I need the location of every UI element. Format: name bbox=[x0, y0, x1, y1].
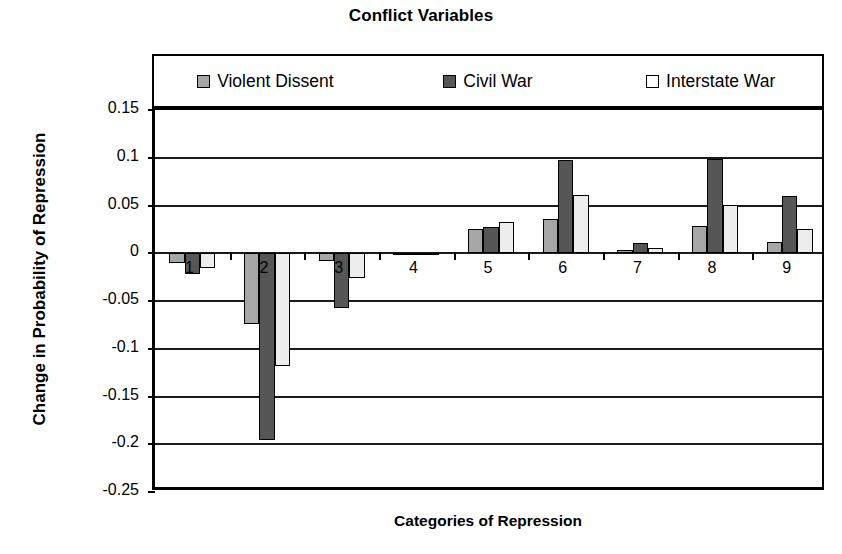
x-tick-mark bbox=[603, 252, 605, 260]
x-category-label: 9 bbox=[749, 260, 824, 276]
y-tick-label: 0 bbox=[17, 243, 139, 259]
y-tick-mark bbox=[148, 109, 155, 111]
y-tick-mark bbox=[148, 396, 155, 398]
bar bbox=[409, 253, 424, 255]
bar bbox=[707, 159, 722, 254]
bar bbox=[648, 248, 663, 253]
legend-label: Civil War bbox=[463, 71, 532, 92]
y-axis-label-container: Change in Probability of Repression bbox=[30, 69, 58, 489]
y-tick-mark bbox=[148, 443, 155, 445]
bar bbox=[259, 253, 274, 440]
chart-figure: Conflict Variables Change in Probability… bbox=[0, 0, 842, 554]
gridline bbox=[155, 443, 822, 445]
x-category-label: 8 bbox=[675, 260, 750, 276]
legend-item-violent-dissent[interactable]: Violent Dissent bbox=[154, 71, 377, 92]
y-tick-mark bbox=[148, 252, 155, 254]
bar bbox=[558, 160, 573, 254]
bar bbox=[468, 229, 483, 253]
plot-area bbox=[152, 108, 824, 490]
y-tick-label: 0.05 bbox=[17, 196, 139, 212]
x-axis-label: Categories of Repression bbox=[152, 512, 824, 530]
bar bbox=[424, 253, 439, 255]
bar bbox=[393, 253, 408, 255]
y-axis-label: Change in Probability of Repression bbox=[30, 69, 50, 489]
y-tick-label: -0.25 bbox=[17, 482, 139, 498]
x-category-label: 2 bbox=[227, 260, 302, 276]
legend-swatch-icon bbox=[646, 75, 659, 88]
x-category-label: 3 bbox=[301, 260, 376, 276]
gridline bbox=[155, 348, 822, 350]
x-tick-mark bbox=[304, 252, 306, 260]
bar bbox=[617, 250, 632, 253]
bar bbox=[692, 226, 707, 254]
x-category-label: 7 bbox=[600, 260, 675, 276]
bar bbox=[573, 195, 588, 253]
y-tick-label: 0.1 bbox=[17, 148, 139, 164]
x-category-label: 4 bbox=[376, 260, 451, 276]
x-tick-mark bbox=[752, 252, 754, 260]
y-tick-label: -0.15 bbox=[17, 387, 139, 403]
x-category-label: 1 bbox=[152, 260, 227, 276]
y-tick-mark bbox=[148, 300, 155, 302]
y-tick-mark bbox=[148, 491, 155, 493]
bar bbox=[767, 242, 782, 253]
y-tick-mark bbox=[148, 157, 155, 159]
x-category-label: 5 bbox=[451, 260, 526, 276]
bar bbox=[782, 196, 797, 253]
bar bbox=[723, 205, 738, 254]
legend-swatch-icon bbox=[443, 75, 456, 88]
legend-item-interstate-war[interactable]: Interstate War bbox=[599, 71, 822, 92]
x-tick-mark bbox=[379, 252, 381, 260]
y-tick-label: -0.05 bbox=[17, 291, 139, 307]
y-tick-label: 0.15 bbox=[17, 100, 139, 116]
y-tick-mark bbox=[148, 205, 155, 207]
bar bbox=[797, 229, 812, 253]
legend-label: Violent Dissent bbox=[217, 71, 333, 92]
chart-title: Conflict Variables bbox=[0, 6, 842, 26]
bar bbox=[543, 219, 558, 253]
x-category-label: 6 bbox=[525, 260, 600, 276]
legend-item-civil-war[interactable]: Civil War bbox=[377, 71, 600, 92]
bar bbox=[633, 243, 648, 254]
x-tick-mark bbox=[678, 252, 680, 260]
gridline bbox=[155, 396, 822, 398]
y-tick-label: -0.1 bbox=[17, 339, 139, 355]
bar bbox=[499, 222, 514, 254]
legend-swatch-icon bbox=[197, 75, 210, 88]
x-tick-mark bbox=[528, 252, 530, 260]
bar bbox=[483, 227, 498, 253]
y-tick-mark bbox=[148, 348, 155, 350]
legend-label: Interstate War bbox=[666, 71, 775, 92]
chart-legend: Violent Dissent Civil War Interstate War bbox=[152, 54, 824, 108]
x-tick-mark bbox=[230, 252, 232, 260]
y-tick-label: -0.2 bbox=[17, 434, 139, 450]
x-tick-mark bbox=[454, 252, 456, 260]
